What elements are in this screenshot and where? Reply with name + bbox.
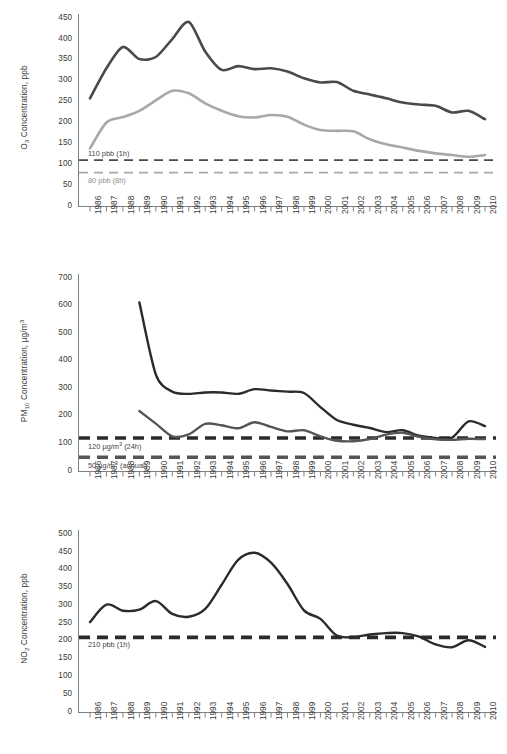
x-tick-label-1992: 1992 [193,702,202,720]
y-tick-label: 200 [40,117,72,126]
x-tick-label-1997: 1997 [275,702,284,720]
chart-svg-o3 [78,14,497,252]
threshold-label: 110 pbb (1h) [88,149,129,158]
x-tick-label-2010: 2010 [489,702,498,720]
x-tick-label-1987: 1987 [110,196,119,214]
threshold-label: 80 pbb (8h) [88,176,126,185]
x-tick-label-1988: 1988 [127,196,136,214]
y-tick-label: 0 [40,707,72,716]
x-tick-label-1988: 1988 [127,702,136,720]
x-tick-label-1986: 1986 [94,702,103,720]
data-series-line [139,302,485,438]
x-tick-label-2004: 2004 [390,461,399,479]
y-tick-label: 300 [40,600,72,609]
x-tick-label-2005: 2005 [407,196,416,214]
x-tick-label-1992: 1992 [193,196,202,214]
x-tick-label-2006: 2006 [423,702,432,720]
chart-svg-pm10 [78,274,497,517]
threshold-label: 120 µg/m3 (24h) [88,441,141,451]
x-tick-label-2004: 2004 [390,702,399,720]
threshold-label: 50 µg/m3 (annual) [88,460,147,470]
x-tick-label-1994: 1994 [226,702,235,720]
x-tick-label-1996: 1996 [259,461,268,479]
x-tick-label-2010: 2010 [489,196,498,214]
y-tick-label: 50 [40,689,72,698]
x-tick-label-1989: 1989 [143,196,152,214]
y-tick-label: 50 [40,180,72,189]
x-tick-label-2000: 2000 [324,461,333,479]
threshold-label: 210 pbb (1h) [88,640,130,649]
data-series-line [90,553,485,648]
data-series-line [90,91,485,157]
y-axis-title-pm10: PM10 Concentration, µg/m3 [18,286,30,456]
pollutant-name: O3 [19,140,29,150]
x-tick-label-2000: 2000 [324,702,333,720]
axis-unit-text: Concentration, µg/m3 [19,319,29,399]
x-tick-label-1993: 1993 [209,196,218,214]
x-tick-label-1998: 1998 [292,461,301,479]
x-tick-label-2002: 2002 [357,196,366,214]
x-tick-label-2003: 2003 [374,702,383,720]
x-tick-label-2008: 2008 [456,461,465,479]
chart-panel-no2: NO2 Concentration, ppb 05010015020025030… [0,516,507,754]
y-tick-label: 250 [40,96,72,105]
x-tick-label-2007: 2007 [440,196,449,214]
pollutant-name: NO2 [19,648,29,664]
x-tick-label-1991: 1991 [176,702,185,720]
x-tick-label-2005: 2005 [407,702,416,720]
x-tick-label-1986: 1986 [94,196,103,214]
y-tick-label: 300 [40,75,72,84]
x-tick-label-2009: 2009 [473,702,482,720]
plot-area-o3 [78,14,497,252]
y-tick-label: 300 [40,383,72,392]
x-tick-label-2001: 2001 [341,702,350,720]
x-tick-label-1989: 1989 [143,702,152,720]
x-tick-label-1990: 1990 [160,196,169,214]
x-tick-label-2010: 2010 [489,461,498,479]
x-tick-label-1994: 1994 [226,461,235,479]
plot-area-pm10 [78,274,497,517]
x-tick-label-2006: 2006 [423,461,432,479]
y-tick-label: 350 [40,582,72,591]
y-tick-label: 150 [40,653,72,662]
chart-panel-pm10: PM10 Concentration, µg/m3 01002003004005… [0,256,507,514]
x-tick-label-1990: 1990 [160,702,169,720]
x-tick-label-2008: 2008 [456,196,465,214]
x-tick-label-1996: 1996 [259,702,268,720]
x-tick-label-1993: 1993 [209,702,218,720]
y-tick-label: 500 [40,328,72,337]
axis-unit-text: Concentration, ppb [19,573,29,645]
x-tick-label-1997: 1997 [275,196,284,214]
x-tick-label-1999: 1999 [308,461,317,479]
y-tick-label: 100 [40,159,72,168]
y-tick-label: 400 [40,34,72,43]
x-tick-label-2008: 2008 [456,702,465,720]
x-tick-label-1996: 1996 [259,196,268,214]
x-tick-label-2001: 2001 [341,196,350,214]
y-tick-label: 400 [40,355,72,364]
x-tick-label-2007: 2007 [440,702,449,720]
x-tick-label-1998: 1998 [292,702,301,720]
x-tick-label-1993: 1993 [209,461,218,479]
y-tick-label: 350 [40,54,72,63]
x-tick-label-1995: 1995 [242,461,251,479]
x-tick-label-1992: 1992 [193,461,202,479]
x-tick-label-2002: 2002 [357,461,366,479]
x-tick-label-1995: 1995 [242,702,251,720]
y-tick-label: 600 [40,300,72,309]
y-tick-label: 100 [40,438,72,447]
x-tick-label-1990: 1990 [160,461,169,479]
chart-panel-o3: O3 Concentration, ppb 050100150200250300… [0,0,507,252]
x-tick-label-2006: 2006 [423,196,432,214]
y-tick-label: 400 [40,564,72,573]
x-tick-label-1995: 1995 [242,196,251,214]
x-tick-label-2009: 2009 [473,461,482,479]
x-tick-label-2009: 2009 [473,196,482,214]
y-tick-label: 150 [40,138,72,147]
axis-unit-text: Concentration, ppb [19,65,29,137]
x-tick-label-1991: 1991 [176,196,185,214]
x-tick-label-1987: 1987 [110,702,119,720]
y-axis-title-o3: O3 Concentration, ppb [19,23,30,193]
y-tick-label: 450 [40,13,72,22]
air-quality-trends-figure: O3 Concentration, ppb 050100150200250300… [0,0,507,754]
